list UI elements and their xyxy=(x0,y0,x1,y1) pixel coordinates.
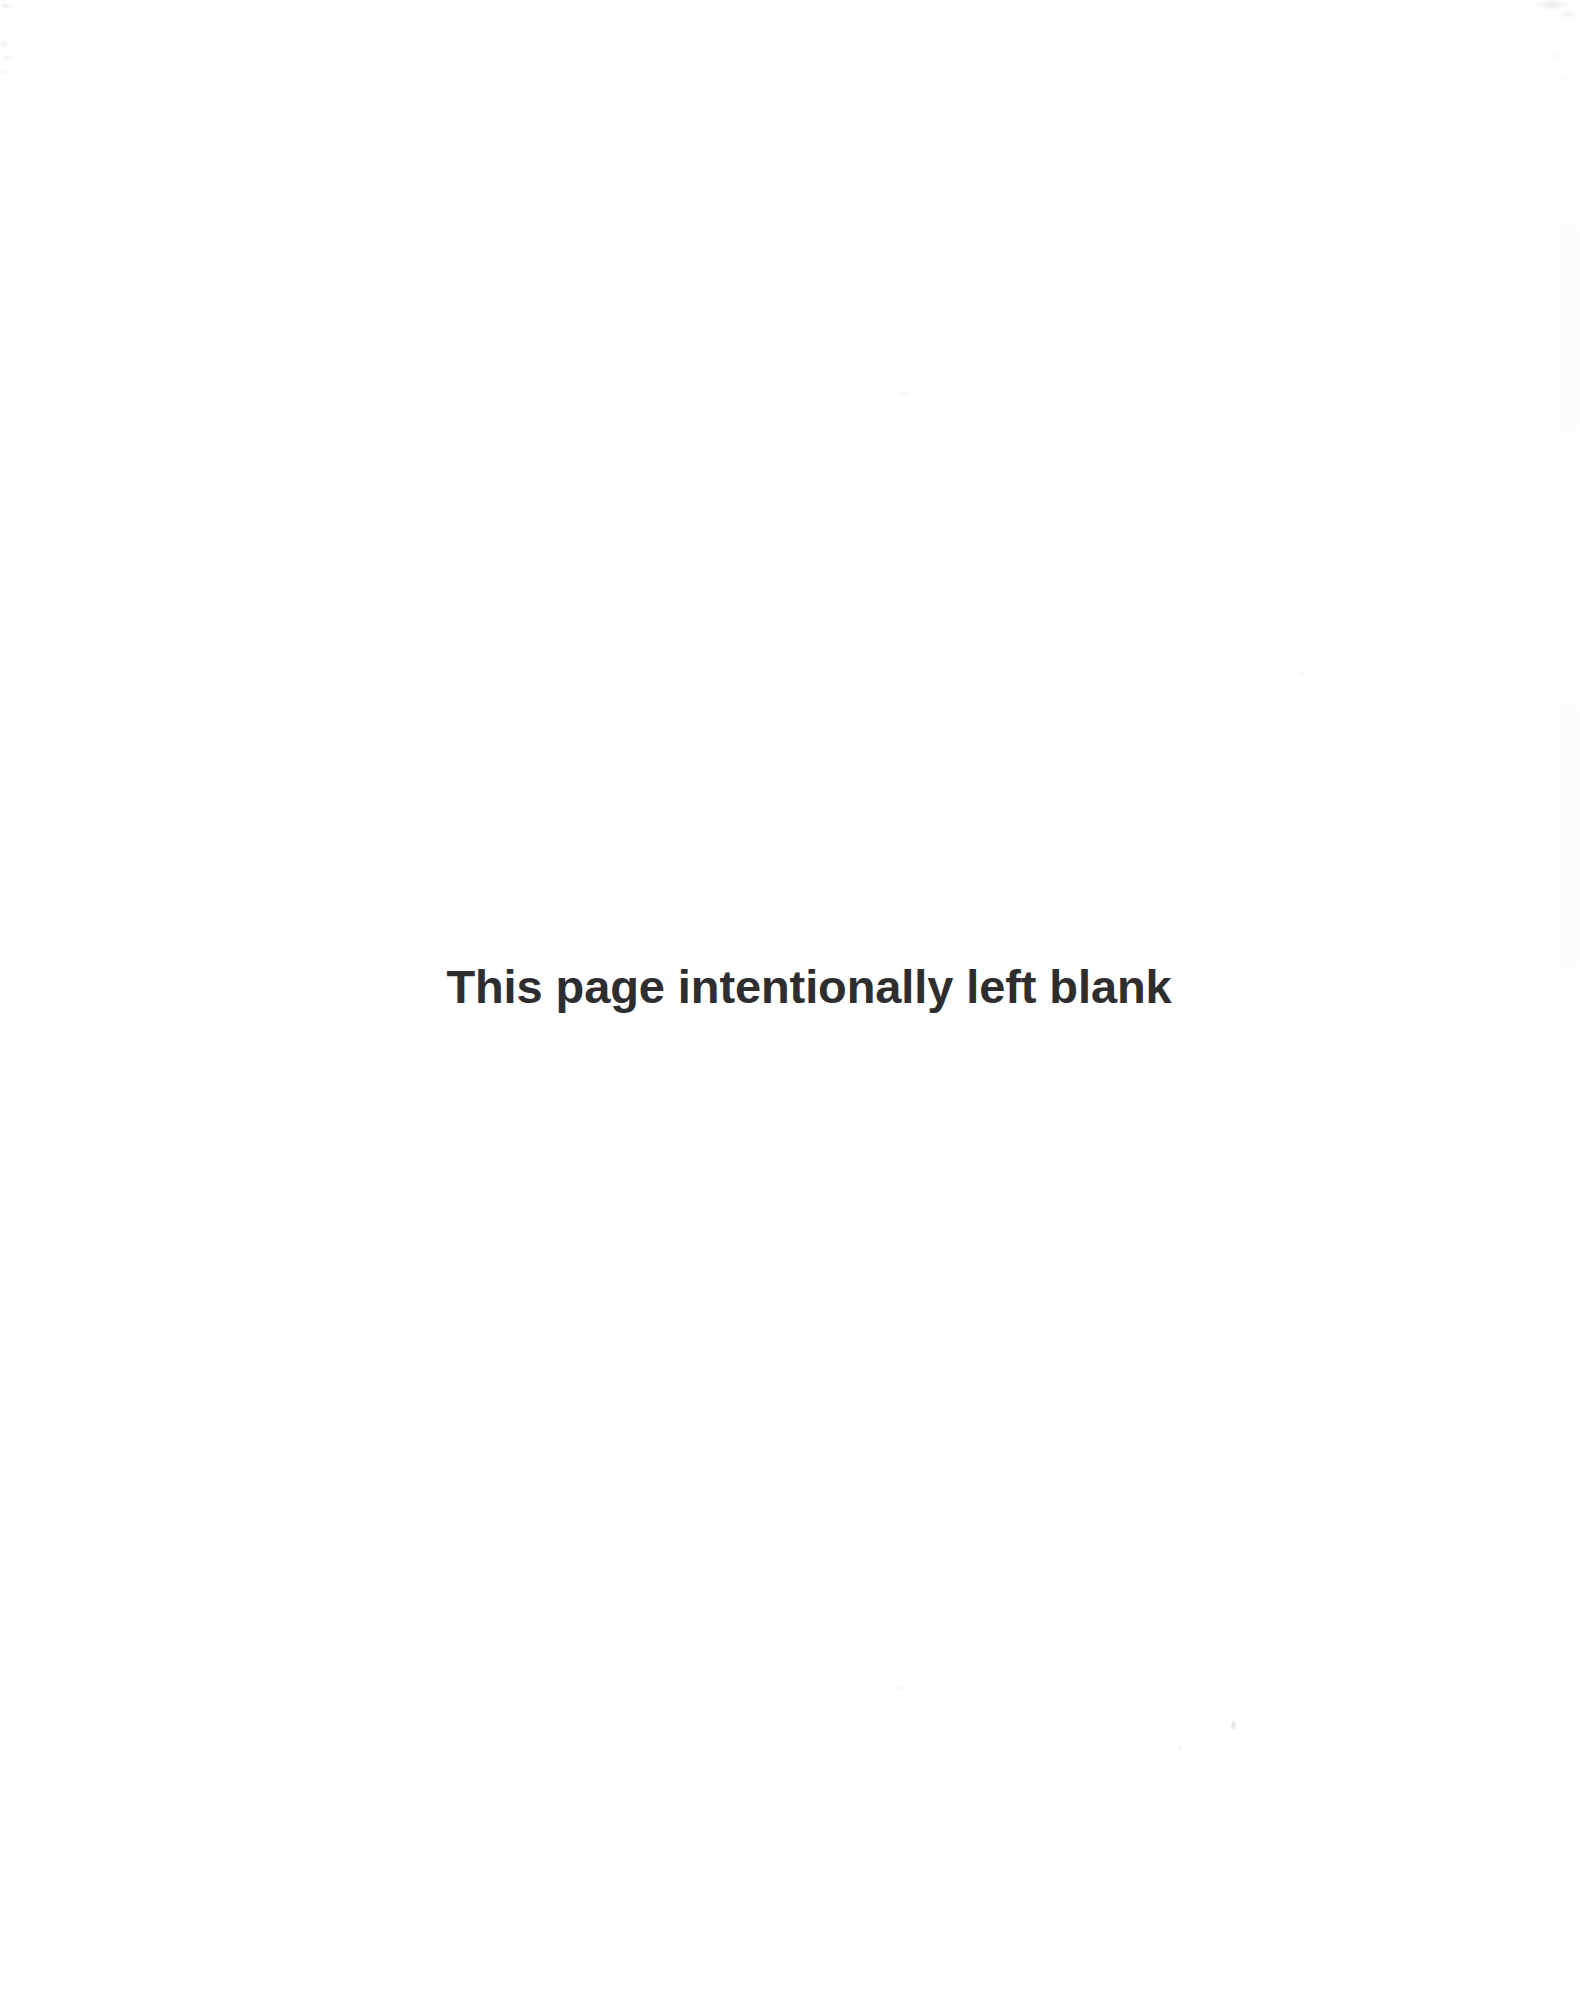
scan-speck xyxy=(1231,1721,1236,1730)
scan-artifact-right-edge xyxy=(1560,120,1580,1220)
blank-page-notice-text: This page intentionally left blank xyxy=(446,962,1171,1011)
scanned-page: This page intentionally left blank xyxy=(0,0,1580,1992)
scan-speck xyxy=(1300,672,1305,676)
scan-artifact-top-left xyxy=(0,0,34,92)
scan-artifact-top-right xyxy=(1480,0,1580,120)
scan-speck xyxy=(896,1686,903,1690)
scan-speck xyxy=(1178,1746,1182,1750)
blank-page-notice: This page intentionally left blank xyxy=(0,962,1580,1011)
scan-speck xyxy=(901,391,907,395)
